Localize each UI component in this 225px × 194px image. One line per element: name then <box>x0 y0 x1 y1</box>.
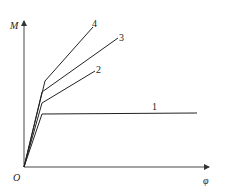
curve-2 <box>24 71 95 167</box>
moment-curvature-diagram: M φ O 1 2 3 4 <box>0 0 225 194</box>
x-axis-label: φ <box>203 175 209 186</box>
curve-2-label: 2 <box>96 64 101 75</box>
curve-4 <box>24 27 93 167</box>
curve-4-label: 4 <box>92 18 97 29</box>
curve-3-label: 3 <box>119 32 124 43</box>
origin-label: O <box>13 172 20 183</box>
curve-3 <box>24 38 118 167</box>
y-axis-label: M <box>9 20 19 31</box>
curve-1 <box>24 113 197 167</box>
curve-1-label: 1 <box>152 101 157 112</box>
